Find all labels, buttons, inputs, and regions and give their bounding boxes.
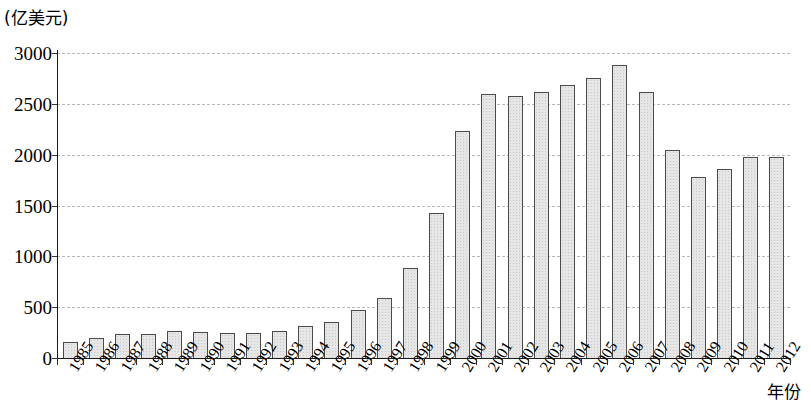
x-axis-tick-mark [738, 358, 739, 365]
bar [717, 169, 732, 358]
x-axis-tick-mark [764, 358, 765, 365]
bar [586, 78, 601, 358]
y-axis-tick-mark [52, 155, 57, 156]
x-axis-tick-mark [659, 358, 660, 365]
gridline [57, 104, 790, 105]
y-axis-tick-label: 500 [0, 298, 52, 317]
y-axis-tick-mark [52, 206, 57, 207]
x-axis-tick-mark [476, 358, 477, 365]
x-axis-tick-mark [424, 358, 425, 365]
bar [691, 177, 706, 358]
x-axis-tick-mark [554, 358, 555, 365]
bar-chart: (亿美元) 050010001500200025003000 年份 198519… [0, 0, 811, 416]
x-axis-tick-mark [633, 358, 634, 365]
bar [665, 150, 680, 358]
x-axis-tick-mark [502, 358, 503, 365]
y-axis-tick-mark [52, 256, 57, 257]
y-axis-tick-label: 2500 [0, 95, 52, 114]
x-axis-tick-mark [711, 358, 712, 365]
x-axis-tick-mark [528, 358, 529, 365]
bar [769, 157, 784, 358]
y-axis-tick-label: 2000 [0, 146, 52, 165]
gridline [57, 206, 790, 207]
y-axis-tick-mark [52, 53, 57, 54]
y-axis-tick-labels: 050010001500200025003000 [0, 0, 52, 416]
x-axis-tick-mark [214, 358, 215, 365]
bar [612, 65, 627, 358]
x-axis-title: 年份 [767, 378, 801, 403]
bar [743, 157, 758, 358]
plot-area [57, 53, 790, 358]
x-axis-tick-mark [83, 358, 84, 365]
bar [534, 92, 549, 358]
gridline [57, 256, 790, 257]
gridline [57, 53, 790, 54]
x-axis-tick-mark [450, 358, 451, 365]
x-axis-tick-mark [581, 358, 582, 365]
x-axis-tick-mark [266, 358, 267, 365]
x-axis-tick-mark [162, 358, 163, 365]
x-axis-tick-mark [109, 358, 110, 365]
x-axis-tick-mark [790, 358, 791, 365]
gridline [57, 307, 790, 308]
bar [481, 94, 496, 358]
bar [455, 131, 470, 358]
x-axis-tick-mark [685, 358, 686, 365]
y-axis-tick-mark [52, 307, 57, 308]
x-axis-tick-mark [319, 358, 320, 365]
y-axis-tick-mark [52, 104, 57, 105]
y-axis-tick-label: 1000 [0, 247, 52, 266]
y-axis-line [57, 50, 58, 360]
bar [508, 96, 523, 358]
bar [639, 92, 654, 358]
x-axis-tick-mark [240, 358, 241, 365]
x-axis-tick-mark [188, 358, 189, 365]
x-axis-tick-mark [345, 358, 346, 365]
x-axis-tick-mark [293, 358, 294, 365]
y-axis-tick-label: 3000 [0, 44, 52, 63]
x-axis-tick-mark [57, 358, 58, 365]
bar [429, 213, 444, 358]
x-axis-tick-mark [397, 358, 398, 365]
y-axis-tick-label: 0 [0, 349, 52, 368]
y-axis-tick-label: 1500 [0, 197, 52, 216]
gridline [57, 155, 790, 156]
x-axis-tick-mark [607, 358, 608, 365]
x-axis-tick-mark [136, 358, 137, 365]
x-axis-tick-mark [371, 358, 372, 365]
bar [560, 85, 575, 358]
